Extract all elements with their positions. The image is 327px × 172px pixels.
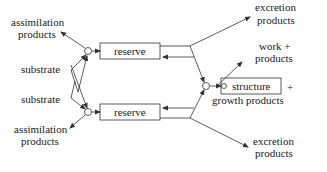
- label-growth-products: growth products: [212, 94, 284, 106]
- node-right: [203, 83, 210, 90]
- label-excretion-top: excretion: [255, 1, 296, 13]
- label-assimilation-bottom: assimilation: [14, 123, 68, 135]
- label-assimilation-top-2: products: [18, 28, 56, 40]
- label-excretion-bottom: excretion: [253, 135, 294, 147]
- label-substrate-1: substrate: [21, 63, 60, 75]
- label-assimilation-bottom-2: products: [21, 135, 59, 147]
- label-assimilation-top: assimilation: [11, 16, 65, 28]
- node-lower: [85, 109, 92, 116]
- label-reserve-upper: reserve: [114, 45, 146, 57]
- label-reserve-lower: reserve: [114, 106, 146, 118]
- label-plus: +: [287, 81, 293, 93]
- label-work: work +: [259, 40, 291, 52]
- label-excretion-top-2: products: [257, 14, 295, 26]
- label-excretion-bottom-2: products: [255, 147, 293, 159]
- flow-diagram: assimilation products substrate substrat…: [0, 0, 327, 172]
- label-structure: structure: [232, 80, 271, 92]
- label-substrate-2: substrate: [21, 93, 60, 105]
- label-work-2: products: [255, 52, 293, 64]
- node-upper: [85, 48, 92, 55]
